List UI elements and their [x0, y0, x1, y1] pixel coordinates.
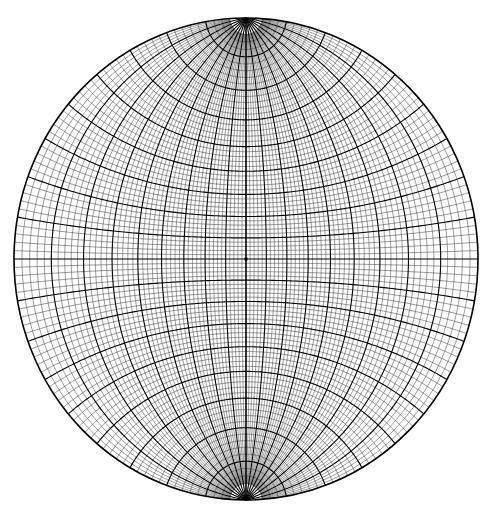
center-mark — [245, 258, 248, 261]
stereonet — [0, 0, 492, 517]
